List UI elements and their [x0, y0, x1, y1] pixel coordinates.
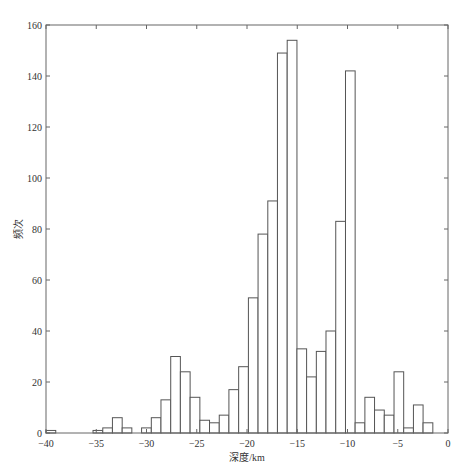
histogram-bar	[112, 418, 122, 433]
histogram-bar	[287, 40, 297, 433]
x-tick-label: 0	[446, 438, 451, 449]
x-tick-label: −5	[392, 438, 403, 449]
histogram-bar	[355, 423, 365, 433]
histogram-bar	[171, 357, 181, 434]
histogram-bar	[103, 428, 113, 433]
histogram-bar	[394, 372, 404, 433]
histogram-chart: −40−35−30−25−20−15−10−50 020406080100120…	[0, 0, 465, 474]
x-tick-label: −10	[340, 438, 356, 449]
histogram-bar	[268, 201, 278, 433]
histogram-bar	[375, 410, 385, 433]
histogram-bar	[365, 397, 375, 433]
x-tick-label: −15	[289, 438, 305, 449]
histogram-bar	[229, 390, 239, 433]
y-tick-label: 0	[37, 428, 42, 439]
x-tick-label: −30	[139, 438, 155, 449]
histogram-bar	[423, 423, 433, 433]
y-tick-label: 20	[32, 377, 42, 388]
histogram-bar	[248, 298, 258, 433]
y-tick-label: 120	[27, 122, 42, 133]
x-tick-label: −20	[239, 438, 255, 449]
histogram-bar	[210, 423, 220, 433]
y-tick-label: 40	[32, 326, 42, 337]
histogram-bar	[151, 418, 161, 433]
histogram-bar	[277, 53, 287, 433]
histogram-bar	[384, 415, 394, 433]
histogram-bar	[200, 420, 210, 433]
y-tick-label: 60	[32, 275, 42, 286]
histogram-bar	[336, 221, 346, 433]
histogram-bars	[46, 40, 433, 433]
y-tick-label: 140	[27, 71, 42, 82]
histogram-bar	[345, 71, 355, 433]
histogram-bar	[307, 377, 317, 433]
histogram-bar	[404, 428, 414, 433]
histogram-bar	[180, 372, 190, 433]
histogram-bar	[326, 331, 336, 433]
histogram-bar	[161, 400, 171, 433]
histogram-bar	[297, 349, 307, 433]
y-tick-label: 80	[32, 224, 42, 235]
x-tick-label: −25	[189, 438, 205, 449]
histogram-bar	[122, 428, 132, 433]
y-axis-ticks: 020406080100120140160	[27, 20, 448, 439]
histogram-bar	[239, 367, 249, 433]
y-tick-label: 160	[27, 20, 42, 31]
x-tick-label: −35	[88, 438, 104, 449]
histogram-bar	[190, 397, 200, 433]
x-tick-label: −40	[38, 438, 54, 449]
histogram-bar	[413, 405, 423, 433]
y-tick-label: 100	[27, 173, 42, 184]
y-axis-label: 频次	[12, 219, 24, 239]
histogram-bar	[258, 234, 268, 433]
histogram-bar	[316, 351, 326, 433]
x-axis-label: 深度/km	[229, 451, 265, 463]
histogram-bar	[219, 415, 229, 433]
